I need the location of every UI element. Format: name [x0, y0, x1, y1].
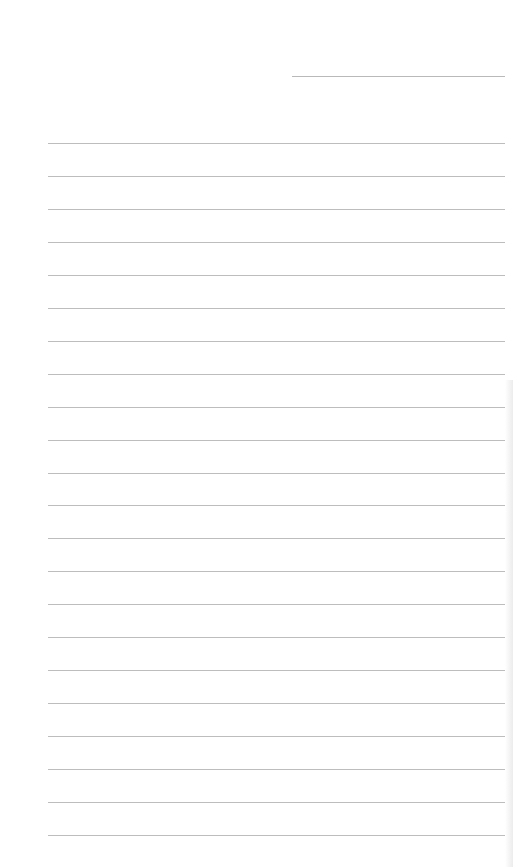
- ruled-line: [48, 275, 505, 276]
- ruled-line: [48, 176, 505, 177]
- ruled-line: [48, 209, 505, 210]
- ruled-line: [48, 440, 505, 441]
- ruled-line: [48, 538, 505, 539]
- ruled-line: [48, 407, 505, 408]
- ruled-line: [48, 341, 505, 342]
- ruled-line: [48, 242, 505, 243]
- ruled-line: [48, 374, 505, 375]
- ruled-line: [48, 736, 505, 737]
- ruled-line: [48, 143, 505, 144]
- ruled-line: [48, 637, 505, 638]
- ruled-line: [48, 703, 505, 704]
- ruled-line: [48, 802, 505, 803]
- ruled-line: [48, 670, 505, 671]
- page-edge-shadow: [505, 380, 513, 867]
- ruled-line: [48, 308, 505, 309]
- ruled-line: [48, 505, 505, 506]
- lined-paper-page: [0, 0, 513, 867]
- ruled-line: [48, 769, 505, 770]
- ruled-line: [48, 835, 505, 836]
- ruled-line: [48, 473, 505, 474]
- date-line: [292, 76, 505, 77]
- ruled-line: [48, 604, 505, 605]
- ruled-line: [48, 571, 505, 572]
